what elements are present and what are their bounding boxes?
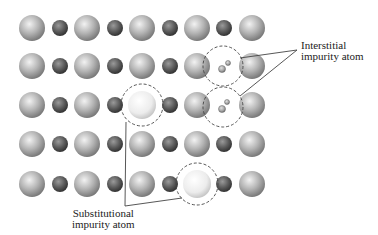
host-atom	[74, 171, 100, 197]
host-atom	[184, 92, 210, 118]
host-atom	[74, 15, 100, 41]
host-atom	[74, 131, 100, 157]
substitutional-label: Substitutional impurity atom	[72, 208, 135, 230]
lattice-diagram	[0, 0, 378, 235]
small-host-atom	[162, 20, 178, 36]
interstitial-label: Interstitial impurity atom	[301, 40, 364, 62]
small-host-atom	[107, 176, 123, 192]
small-host-atom	[162, 58, 178, 74]
small-host-atom	[107, 20, 123, 36]
small-host-atom	[52, 136, 68, 152]
small-host-atom	[162, 136, 178, 152]
small-host-atom	[107, 136, 123, 152]
host-atom	[239, 131, 265, 157]
interstitial-atom-1	[219, 61, 231, 73]
small-host-atom	[216, 20, 232, 36]
interstitial-label-line2: impurity atom	[301, 51, 364, 62]
host-atom	[239, 171, 265, 197]
host-atom	[19, 15, 45, 41]
interstitial-atom-2	[219, 100, 230, 113]
host-atom	[19, 171, 45, 197]
substitutional-impurity-atom	[128, 91, 156, 119]
host-atom	[129, 131, 155, 157]
host-atom	[19, 53, 45, 79]
host-atom	[239, 15, 265, 41]
host-atom	[19, 131, 45, 157]
host-atom	[184, 15, 210, 41]
atom-grid	[19, 15, 265, 198]
small-host-atom	[52, 176, 68, 192]
small-host-atom	[162, 97, 178, 113]
host-atom	[239, 53, 265, 79]
substitutional-label-line2: impurity atom	[72, 219, 135, 230]
small-host-atom	[107, 58, 123, 74]
small-host-atom	[52, 58, 68, 74]
host-atom	[74, 92, 100, 118]
small-host-atom	[216, 136, 232, 152]
host-atom	[184, 53, 210, 79]
host-atom	[129, 53, 155, 79]
host-atom	[184, 131, 210, 157]
small-host-atom	[52, 20, 68, 36]
substitutional-impurity-atom	[183, 170, 211, 198]
host-atom	[74, 53, 100, 79]
small-host-atom	[52, 97, 68, 113]
host-atom	[19, 92, 45, 118]
host-atom	[129, 171, 155, 197]
host-atom	[129, 15, 155, 41]
